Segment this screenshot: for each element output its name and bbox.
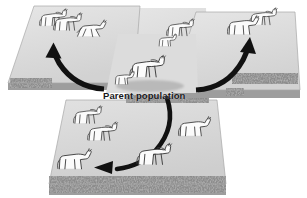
lower-plateau xyxy=(49,100,226,195)
speciation-diagram: Parent population xyxy=(0,0,307,198)
parent-population-label: Parent population xyxy=(103,90,185,101)
